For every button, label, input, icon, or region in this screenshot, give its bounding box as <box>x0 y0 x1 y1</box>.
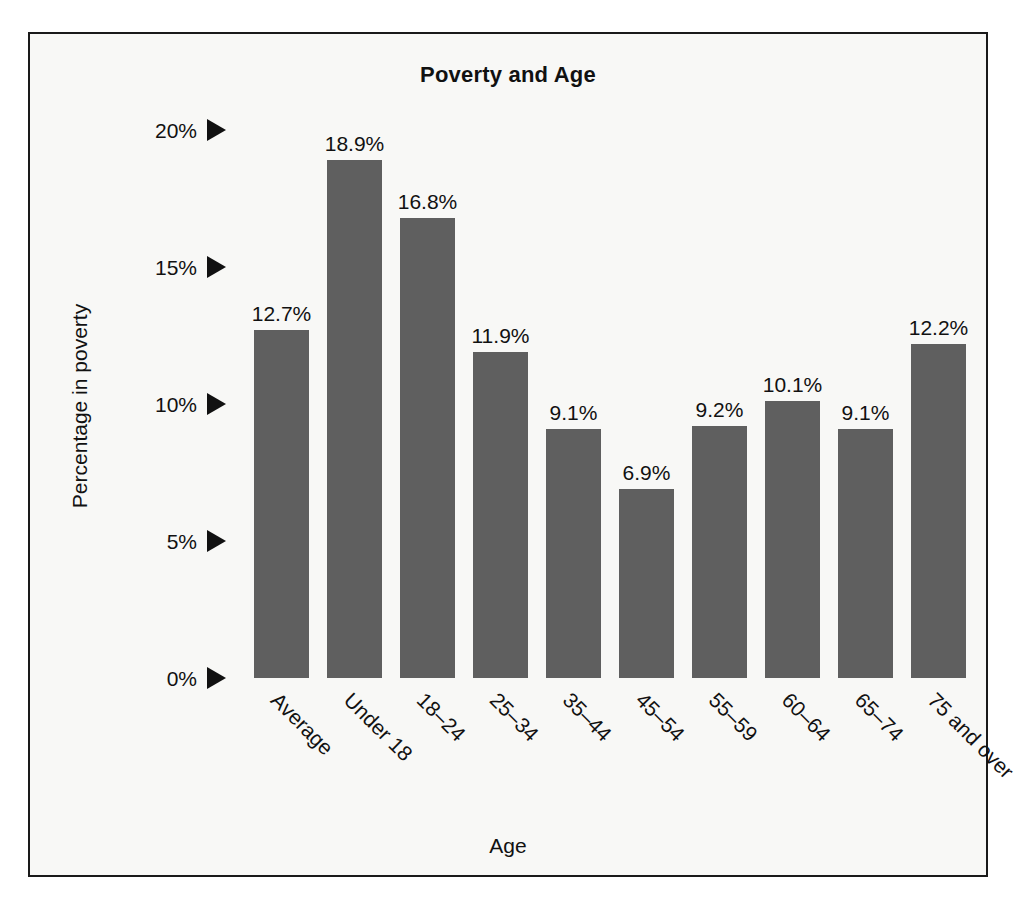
chart-title: Poverty and Age <box>30 62 986 88</box>
x-axis-title: Age <box>30 834 986 858</box>
bar[interactable] <box>473 352 528 678</box>
bar-value-label: 10.1% <box>763 374 823 395</box>
y-axis-tick-label: 15% <box>155 257 197 278</box>
x-axis-tick-label: 75 and over <box>923 688 1018 783</box>
bar-value-label: 9.1% <box>550 402 598 423</box>
bar-group: 18.9% <box>327 130 382 678</box>
y-axis-tick: 0% <box>86 666 226 690</box>
y-axis-tick: 20% <box>86 118 226 142</box>
bar-value-label: 9.2% <box>696 399 744 420</box>
bar[interactable] <box>692 426 747 678</box>
x-axis-tick-label: 65–74 <box>850 688 908 746</box>
bar-group: 9.1% <box>546 130 601 678</box>
x-axis-tick-label: 25–34 <box>485 688 543 746</box>
y-axis-tick-label: 0% <box>167 668 197 689</box>
chart-frame: Poverty and Age Percentage in poverty 0%… <box>28 32 988 877</box>
bar[interactable] <box>765 401 820 678</box>
bar-group: 12.2% <box>911 130 966 678</box>
y-axis-tick-label: 5% <box>167 531 197 552</box>
bar-value-label: 12.7% <box>252 303 312 324</box>
bar-group: 11.9% <box>473 130 528 678</box>
bar-group: 9.1% <box>838 130 893 678</box>
bar-group: 12.7% <box>254 130 309 678</box>
plot-area: 12.7%Average18.9%Under 1816.8%18–2411.9%… <box>226 130 946 678</box>
x-axis-tick-label: Average <box>266 688 338 760</box>
y-axis-tick-label: 20% <box>155 120 197 141</box>
bar-group: 10.1% <box>765 130 820 678</box>
right-triangle-marker-icon <box>207 119 226 141</box>
bar[interactable] <box>400 218 455 678</box>
right-triangle-marker-icon <box>207 256 226 278</box>
bar-value-label: 6.9% <box>623 462 671 483</box>
y-axis-tick: 10% <box>86 392 226 416</box>
bar-value-label: 12.2% <box>909 317 969 338</box>
bar-group: 6.9% <box>619 130 674 678</box>
x-axis-tick-label: 60–64 <box>777 688 835 746</box>
bar[interactable] <box>911 344 966 678</box>
x-axis-tick-label: 55–59 <box>704 688 762 746</box>
right-triangle-marker-icon <box>207 393 226 415</box>
x-axis-tick-label: 35–44 <box>558 688 616 746</box>
right-triangle-marker-icon <box>207 530 226 552</box>
bar[interactable] <box>327 160 382 678</box>
bar[interactable] <box>838 429 893 678</box>
bar[interactable] <box>619 489 674 678</box>
right-triangle-marker-icon <box>207 667 226 689</box>
bar[interactable] <box>546 429 601 678</box>
bar-value-label: 11.9% <box>472 325 530 346</box>
bar-group: 9.2% <box>692 130 747 678</box>
y-axis-tick: 5% <box>86 529 226 553</box>
y-axis-tick-label: 10% <box>155 394 197 415</box>
bar[interactable] <box>254 330 309 678</box>
x-axis-tick-label: Under 18 <box>339 688 417 766</box>
bar-value-label: 9.1% <box>842 402 890 423</box>
x-axis-tick-label: 18–24 <box>412 688 470 746</box>
bar-group: 16.8% <box>400 130 455 678</box>
x-axis-tick-label: 45–54 <box>631 688 689 746</box>
y-axis-tick: 15% <box>86 255 226 279</box>
bar-value-label: 18.9% <box>325 133 385 154</box>
bar-value-label: 16.8% <box>398 191 458 212</box>
